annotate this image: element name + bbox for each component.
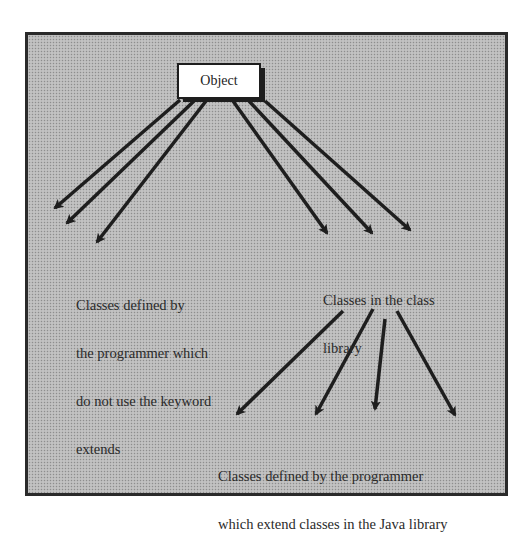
extended-classes-label: Classes defined by the programmer which …	[218, 436, 448, 536]
object-node: Object	[177, 63, 261, 99]
arrow-object-to-user-2	[67, 101, 194, 223]
arrow-object-to-user-3	[97, 101, 206, 242]
object-node-label: Object	[200, 73, 237, 89]
arrow-object-to-library-1	[233, 101, 327, 233]
user-classes-label: Classes defined by the programmer which …	[76, 265, 211, 473]
library-classes-label: Classes in the class library	[323, 260, 435, 372]
arrow-object-to-library-2	[249, 101, 372, 233]
arrow-object-to-library-3	[265, 101, 410, 230]
arrow-object-to-user-1	[55, 100, 180, 208]
